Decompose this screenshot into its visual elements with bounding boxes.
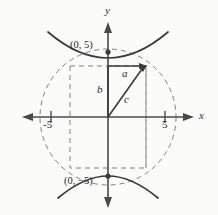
x-tick-label-neg5: -5 xyxy=(43,119,52,130)
math-figure: y x -5 5 (0, 5) (0, −5) a b c xyxy=(0,0,218,215)
point-0-neg5-dot xyxy=(105,173,110,178)
x-tick-label-pos5: 5 xyxy=(162,119,168,130)
point-label-0-5: (0, 5) xyxy=(70,40,93,51)
point-0-5-dot xyxy=(105,49,110,54)
figure-canvas xyxy=(0,0,218,215)
y-axis-label: y xyxy=(105,5,110,16)
triangle-label-a: a xyxy=(122,68,128,79)
triangle-label-c: c xyxy=(124,94,129,105)
point-label-0-neg5: (0, −5) xyxy=(64,176,93,187)
x-axis-label: x xyxy=(199,110,204,121)
triangle-label-b: b xyxy=(97,84,103,95)
